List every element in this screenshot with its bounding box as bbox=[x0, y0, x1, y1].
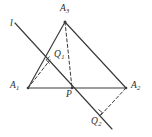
label-line-l: l bbox=[10, 18, 13, 28]
vertex-dot-A2 bbox=[125, 87, 128, 90]
geometry-figure: l A3 Q1 A1 A2 P Q2 bbox=[0, 0, 152, 137]
transversal-line-l bbox=[15, 23, 112, 129]
label-point-A3: A3 bbox=[60, 4, 69, 14]
vertex-dot-A3 bbox=[64, 21, 67, 24]
figure-canvas bbox=[0, 0, 152, 137]
label-point-P: P bbox=[66, 90, 72, 100]
perpendicular-segment-A1-Q1 bbox=[28, 60, 50, 88]
label-point-Q2: Q2 bbox=[91, 117, 101, 127]
dashed-lines-group bbox=[28, 22, 126, 116]
side-line-A3-A2 bbox=[65, 22, 126, 88]
perpendicular-segment-A2-Q2 bbox=[100, 88, 126, 116]
vertex-dots-group bbox=[27, 21, 128, 90]
vertex-dot-A1 bbox=[27, 87, 30, 90]
label-point-A2: A2 bbox=[131, 81, 140, 91]
label-point-Q1: Q1 bbox=[54, 50, 64, 60]
label-point-A1: A1 bbox=[10, 81, 19, 91]
